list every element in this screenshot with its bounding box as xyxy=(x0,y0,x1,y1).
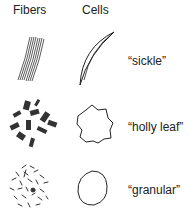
granular-circle-icon xyxy=(78,171,107,205)
holly-leaf-icon xyxy=(77,105,113,143)
parallel-fiber-bundle-icon xyxy=(18,37,44,81)
sickle-label: “sickle” xyxy=(128,54,166,68)
scattered-fiber-bundles-icon xyxy=(10,99,58,147)
granular-label: “granular” xyxy=(128,183,180,197)
diagram-drawing xyxy=(0,0,189,213)
sickle-icon xyxy=(80,32,114,85)
holly-leaf-label: “holly leaf” xyxy=(128,120,183,134)
short-random-fibers-icon xyxy=(10,165,48,207)
